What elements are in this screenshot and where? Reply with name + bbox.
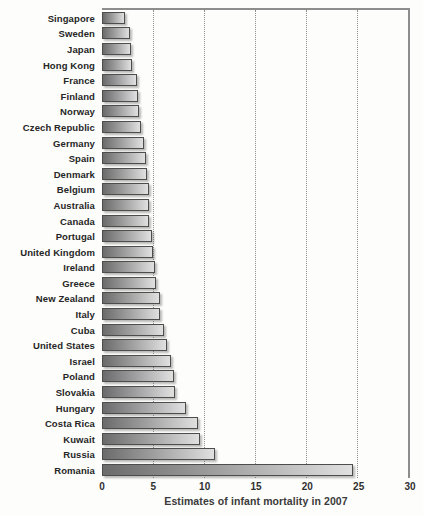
bar-row: Belgium [102,182,408,198]
bar-row: Australia [102,197,408,213]
country-label: Israel [70,355,95,366]
country-label: Italy [75,309,95,320]
bar-row: Denmark [102,166,408,182]
bar [102,433,200,445]
plot-area: SingaporeSwedenJapanHong KongFranceFinla… [102,8,410,478]
x-tick-label: 10 [199,481,210,492]
bar [102,152,146,164]
bar-row: Spain [102,150,408,166]
bar-row: Germany [102,135,408,151]
country-label: Russia [63,449,95,460]
x-axis-title: Estimates of infant mortality in 2007 [102,495,410,507]
x-tick-label: 20 [302,481,313,492]
country-label: Romania [54,465,95,476]
bar [102,261,155,273]
country-label: France [63,75,95,86]
bar-row: Greece [102,275,408,291]
bar-rows: SingaporeSwedenJapanHong KongFranceFinla… [102,10,408,478]
bar [102,230,152,242]
bar-row: United Kingdom [102,244,408,260]
bar-row: Cuba [102,322,408,338]
country-label: New Zealand [36,293,95,304]
x-tick-label: 15 [250,481,261,492]
bar-row: Singapore [102,10,408,26]
bar [102,402,186,414]
bar [102,90,138,102]
bar-row: Canada [102,213,408,229]
country-label: United Kingdom [20,246,95,257]
bar-row: Russia [102,447,408,463]
bar-row: United States [102,337,408,353]
bar [102,121,141,133]
country-label: Portugal [56,231,95,242]
bar [102,59,132,71]
bar [102,277,156,289]
bar [102,308,160,320]
country-label: Finland [61,90,95,101]
bar [102,168,147,180]
bar [102,215,149,227]
bar [102,43,131,55]
country-label: Australia [53,199,95,210]
country-label: Sweden [59,28,96,39]
x-tick-label: 30 [404,481,415,492]
x-tick-label: 0 [99,481,105,492]
x-tick-label: 25 [353,481,364,492]
country-label: Norway [60,106,95,117]
bar-row: France [102,72,408,88]
bar-row: Czech Republic [102,119,408,135]
bar-row: Slovakia [102,384,408,400]
bar [102,105,139,117]
bar [102,339,167,351]
country-label: United States [33,340,95,351]
bar-row: Italy [102,306,408,322]
country-label: Czech Republic [23,121,95,132]
country-label: Singapore [48,12,95,23]
bar [102,464,353,476]
bar-row: Romania [102,462,408,478]
bar [102,370,174,382]
bar-row: Japan [102,41,408,57]
country-label: Belgium [57,184,95,195]
country-label: Canada [60,215,95,226]
bar [102,355,171,367]
country-label: Kuwait [63,433,95,444]
bar [102,12,125,24]
bar [102,183,149,195]
country-label: Germany [53,137,95,148]
x-axis-tick-labels: 051015202530 [102,481,410,494]
bar-row: Finland [102,88,408,104]
bar-row: Sweden [102,26,408,42]
bar-row: Norway [102,104,408,120]
bar [102,292,160,304]
bar-row: Ireland [102,260,408,276]
country-label: Spain [69,153,95,164]
bar [102,324,164,336]
x-tick-label: 5 [151,481,157,492]
country-label: Japan [67,43,95,54]
country-label: Hong Kong [43,59,95,70]
country-label: Ireland [63,262,95,273]
country-label: Denmark [54,168,95,179]
country-label: Greece [62,277,95,288]
bar-row: Hungary [102,400,408,416]
bar-row: Israel [102,353,408,369]
bar [102,137,144,149]
country-label: Hungary [56,402,95,413]
bar-row: New Zealand [102,291,408,307]
bar-row: Poland [102,369,408,385]
country-label: Costa Rica [45,418,95,429]
infant-mortality-bar-chart: SingaporeSwedenJapanHong KongFranceFinla… [0,0,423,516]
country-label: Slovakia [56,387,95,398]
bar-row: Costa Rica [102,415,408,431]
bar [102,417,198,429]
country-label: Poland [63,371,95,382]
bar [102,74,137,86]
bar [102,448,215,460]
bar [102,386,175,398]
bar [102,199,149,211]
bar-row: Kuwait [102,431,408,447]
bar-row: Hong Kong [102,57,408,73]
country-label: Cuba [71,324,95,335]
bar-row: Portugal [102,228,408,244]
